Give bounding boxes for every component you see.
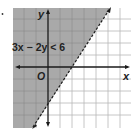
marker-dot — [2, 13, 4, 15]
origin-label: O — [37, 70, 45, 82]
inequality-label: 3x − 2y < 6 — [12, 41, 65, 53]
y-axis-label: y — [37, 8, 45, 20]
x-axis-label: x — [122, 70, 130, 82]
shaded-region — [13, 8, 110, 128]
inequality-graph: y x O 3x − 2y < 6 — [0, 0, 137, 134]
